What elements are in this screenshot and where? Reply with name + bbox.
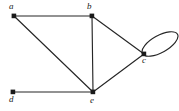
edge-c-e (93, 54, 144, 92)
edge-b-c (92, 16, 144, 54)
vertex-group (11, 14, 147, 95)
vertex-label-b: b (87, 2, 92, 11)
edge-a-e (14, 16, 93, 92)
vertex-label-c: c (142, 56, 146, 65)
vertex-b (90, 14, 95, 19)
graph-figure: a b c d e (0, 0, 179, 111)
vertex-a (12, 14, 17, 19)
vertex-label-e: e (90, 96, 94, 105)
vertex-label-a: a (9, 2, 14, 11)
vertex-e (91, 90, 96, 95)
edge-b-e (92, 16, 93, 92)
edge-group (13, 16, 179, 92)
vertex-label-d: d (9, 95, 14, 104)
